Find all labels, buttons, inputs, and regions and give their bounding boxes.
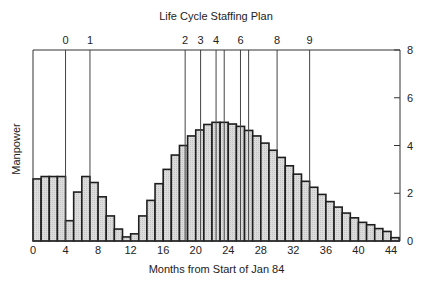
milestone-label: 0	[62, 34, 68, 46]
milestone-label: 8	[274, 34, 280, 46]
x-tick-label: 20	[190, 244, 202, 256]
bar	[179, 146, 187, 242]
bar	[74, 192, 82, 241]
bar	[277, 157, 285, 241]
milestone-label: 4	[213, 34, 219, 46]
x-tick-label: 28	[255, 244, 267, 256]
bar	[334, 207, 342, 241]
bar	[302, 181, 310, 241]
staffing-chart: Life Cycle Staffing Plan Manpower Months…	[0, 0, 432, 286]
bar	[41, 177, 49, 241]
bar	[285, 166, 293, 241]
bar	[358, 222, 366, 241]
bar	[326, 202, 334, 241]
bar	[131, 234, 139, 241]
x-tick-label: 16	[157, 244, 169, 256]
bar	[253, 136, 261, 241]
bar	[139, 216, 147, 241]
bar	[163, 169, 171, 241]
milestone-label: 6	[237, 34, 243, 46]
bar	[375, 229, 383, 241]
x-tick-label: 4	[62, 244, 68, 256]
y-tick-label: 8	[407, 44, 413, 56]
milestone-label: 3	[198, 34, 204, 46]
bar	[261, 143, 269, 241]
bar	[57, 177, 65, 241]
bar	[123, 237, 131, 241]
bar	[155, 184, 163, 241]
milestone-label: 2	[182, 34, 188, 46]
milestone-label: 1	[87, 34, 93, 46]
bar	[90, 183, 98, 241]
x-tick-label: 44	[385, 244, 397, 256]
y-tick-label: 2	[407, 187, 413, 199]
x-tick-label: 8	[95, 244, 101, 256]
milestone-label: 9	[307, 34, 313, 46]
bar	[171, 155, 179, 241]
bar	[49, 177, 57, 241]
plot-area: 01234689 02468048121620242832364044	[0, 0, 432, 286]
bar	[383, 231, 391, 241]
bar	[114, 229, 122, 241]
bar	[106, 216, 114, 241]
x-tick-label: 32	[287, 244, 299, 256]
x-tick-label: 24	[222, 244, 234, 256]
bar	[318, 194, 326, 241]
bar	[196, 130, 204, 241]
y-tick-label: 4	[407, 140, 413, 152]
bar	[293, 174, 301, 241]
bar	[82, 177, 90, 241]
bar	[98, 197, 106, 241]
bar	[147, 200, 155, 241]
bar	[204, 124, 212, 241]
bar	[350, 218, 358, 241]
bar	[269, 150, 277, 241]
y-tick-label: 0	[407, 235, 413, 247]
bar	[228, 124, 236, 241]
x-tick-label: 36	[320, 244, 332, 256]
bar	[188, 136, 196, 241]
bar	[342, 213, 350, 241]
bar	[310, 187, 318, 241]
x-tick-label: 0	[30, 244, 36, 256]
bar	[33, 179, 41, 241]
x-tick-label: 40	[352, 244, 364, 256]
bar	[66, 221, 74, 241]
x-tick-label: 12	[125, 244, 137, 256]
y-tick-label: 6	[407, 92, 413, 104]
bar	[367, 225, 375, 241]
